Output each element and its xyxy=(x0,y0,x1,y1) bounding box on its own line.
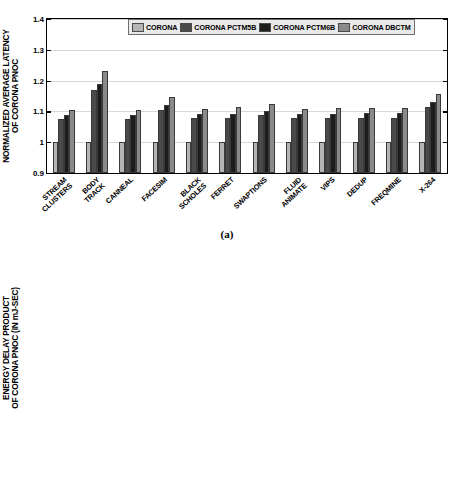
legend-label: CORONA PCTM6B xyxy=(273,23,335,32)
bar xyxy=(202,109,208,173)
panel-a: NORMALIZED AVERAGE LATENCY OF CORONA PNO… xyxy=(0,0,454,248)
y-tick-label: 1 xyxy=(40,138,44,147)
bar-group xyxy=(147,19,180,173)
legend-swatch-icon xyxy=(259,23,271,32)
bar-group xyxy=(347,19,380,173)
x-axis-labels-a: STREAM CLUSTERSBODY TRACKCANNEALFACESIMB… xyxy=(46,176,448,232)
y-tick-label: 1.1 xyxy=(33,107,44,116)
x-tick-label: VIPS xyxy=(319,176,336,193)
x-tick-label: STREAM CLUSTERS xyxy=(35,176,73,213)
bar xyxy=(236,107,242,173)
y-tick-mark xyxy=(47,173,51,174)
bar-group xyxy=(247,19,280,173)
legend-swatch-icon xyxy=(338,23,350,32)
bar-group xyxy=(114,19,147,173)
bar xyxy=(269,104,275,173)
bar-group xyxy=(180,19,213,173)
bar-group xyxy=(47,19,80,173)
figure-container: NORMALIZED AVERAGE LATENCY OF CORONA PNO… xyxy=(0,0,454,497)
y-axis-title-a: NORMALIZED AVERAGE LATENCY OF CORONA PNO… xyxy=(2,10,21,182)
x-tick-label: BODY TRACK xyxy=(78,176,107,204)
legend-swatch-icon xyxy=(180,23,192,32)
bar xyxy=(402,108,408,173)
bar xyxy=(436,94,442,173)
x-tick-label: CANNEAL xyxy=(104,176,135,205)
legend-item-0: CORONA xyxy=(132,23,177,32)
bar xyxy=(102,71,108,173)
x-tick-label: DEDUP xyxy=(346,176,369,199)
y-tick-label: 0.9 xyxy=(33,169,44,178)
legend-label: CORONA xyxy=(146,23,177,32)
bar-series-a xyxy=(47,19,447,173)
bar xyxy=(302,109,308,173)
bar-group xyxy=(414,19,447,173)
x-tick-label: FLUID ANIMATE xyxy=(274,176,308,209)
bar-group xyxy=(280,19,313,173)
panel-b: ENERGY DELAY PRODUCT OF CORONA PNOC (IN … xyxy=(0,248,454,497)
legend-item-2: CORONA PCTM6B xyxy=(259,23,335,32)
bar xyxy=(336,108,342,173)
x-tick-label: FACESIM xyxy=(140,176,168,203)
x-tick-label: FERRET xyxy=(210,176,236,201)
bar xyxy=(136,110,142,173)
panel-caption-a: (a) xyxy=(0,228,454,240)
y-tick-label: 1.3 xyxy=(33,45,44,54)
bar-group xyxy=(80,19,113,173)
legend-swatch-icon xyxy=(132,23,144,32)
bar-group xyxy=(314,19,347,173)
y-tick-label: 1.4 xyxy=(33,15,44,24)
legend-a: CORONACORONA PCTM5BCORONA PCTM6BCORONA D… xyxy=(128,19,415,35)
plot-area-a: 0.911.11.21.31.4 xyxy=(46,18,448,174)
x-tick-label: BLACK SCHOLES xyxy=(172,176,207,211)
y-axis-title-b: ENERGY DELAY PRODUCT OF CORONA PNOC (IN … xyxy=(2,260,21,436)
legend-item-3: CORONA DBCTM xyxy=(338,23,410,32)
x-tick-label: FREQMINE xyxy=(370,176,403,207)
bar-group xyxy=(380,19,413,173)
bar xyxy=(369,108,375,173)
legend-label: CORONA DBCTM xyxy=(352,23,410,32)
x-tick-label: X-264 xyxy=(418,176,437,194)
bar xyxy=(69,110,75,173)
y-tick-mark xyxy=(443,173,447,174)
bar xyxy=(169,97,175,173)
legend-label: CORONA PCTM5B xyxy=(194,23,256,32)
legend-item-1: CORONA PCTM5B xyxy=(180,23,256,32)
x-tick-label: SWAPTIONS xyxy=(233,176,269,211)
y-tick-label: 1.2 xyxy=(33,76,44,85)
bar-group xyxy=(214,19,247,173)
